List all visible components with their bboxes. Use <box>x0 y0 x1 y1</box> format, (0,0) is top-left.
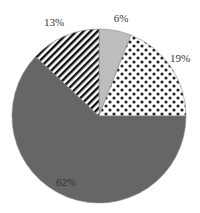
slice-label: 62% <box>56 176 76 188</box>
pie-chart: 6%19%62%13% <box>0 0 200 213</box>
slice-label: 6% <box>114 12 129 24</box>
slice-label: 13% <box>44 16 64 28</box>
slice-label: 19% <box>170 52 190 64</box>
